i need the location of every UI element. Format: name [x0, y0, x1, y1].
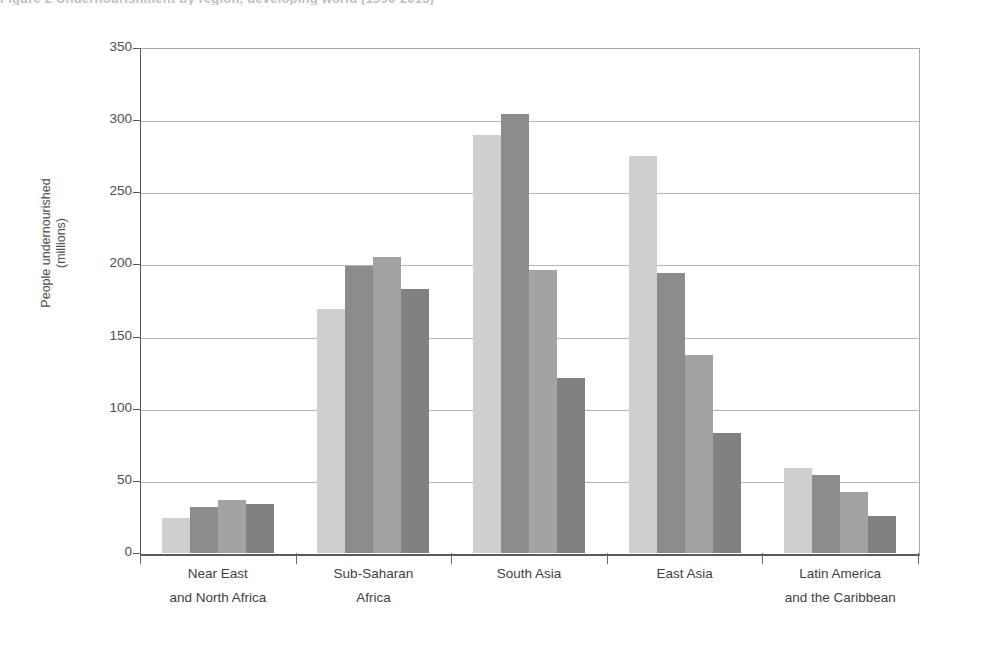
x-axis-category-label: Near Eastand North Africa	[140, 562, 296, 610]
bar[interactable]	[529, 270, 557, 553]
bar-slot	[657, 48, 685, 553]
bar-slot	[629, 48, 657, 553]
y-axis-tick-label: 150	[72, 328, 132, 343]
x-axis-category-label-line: East Asia	[607, 562, 763, 586]
bar[interactable]	[190, 507, 218, 553]
bar-slot	[501, 48, 529, 553]
x-axis-category-label-line: Africa	[296, 586, 452, 610]
y-axis-tick-label: 200	[72, 255, 132, 270]
bar-chart: People undernourished (millions) 0501001…	[0, 0, 1004, 653]
bar[interactable]	[657, 273, 685, 553]
bar[interactable]	[713, 433, 741, 553]
y-axis-tick-mark	[133, 409, 140, 410]
x-axis-tick-mark	[918, 553, 919, 564]
bar[interactable]	[784, 468, 812, 553]
x-axis-tick-mark	[296, 553, 297, 564]
bar[interactable]	[246, 504, 274, 553]
bar-slot	[784, 48, 812, 553]
y-axis-title: People undernourished (millions)	[39, 163, 69, 323]
y-axis-tick-label: 50	[72, 472, 132, 487]
bar[interactable]	[868, 516, 896, 554]
y-axis-tick-mark	[133, 120, 140, 121]
bar[interactable]	[162, 518, 190, 553]
bar-slot	[162, 48, 190, 553]
y-axis-title-line1: People undernourished	[39, 163, 54, 323]
y-axis-tick-mark	[133, 192, 140, 193]
y-axis-tick-label: 350	[72, 39, 132, 54]
bar-slot	[345, 48, 373, 553]
bar[interactable]	[317, 309, 345, 553]
y-axis-tick-mark	[133, 481, 140, 482]
x-axis-category-label: East Asia	[607, 562, 763, 586]
bar[interactable]	[401, 289, 429, 553]
bar[interactable]	[373, 257, 401, 553]
bar-slot	[373, 48, 401, 553]
x-axis-category-label-line: Latin America	[762, 562, 918, 586]
bar[interactable]	[812, 475, 840, 553]
y-axis-tick-mark	[133, 264, 140, 265]
x-axis-category-label: South Asia	[451, 562, 607, 586]
bar-slot	[868, 48, 896, 553]
bar-slot	[713, 48, 741, 553]
bar-slot	[685, 48, 713, 553]
bar-slot	[317, 48, 345, 553]
x-axis-category-label: Sub-SaharanAfrica	[296, 562, 452, 610]
y-axis-tick-label: 100	[72, 400, 132, 415]
y-axis-title-line2: (millions)	[54, 163, 69, 323]
y-axis-tick-label: 300	[72, 111, 132, 126]
bar-group	[317, 48, 429, 553]
bar[interactable]	[473, 135, 501, 553]
y-axis-tick-mark	[133, 337, 140, 338]
x-axis-category-label-line: South Asia	[451, 562, 607, 586]
bar[interactable]	[840, 492, 868, 553]
y-axis-tick-label: 0	[72, 544, 132, 559]
bar[interactable]	[629, 156, 657, 553]
x-axis-tick-mark	[607, 553, 608, 564]
bar-slot	[557, 48, 585, 553]
bar[interactable]	[345, 266, 373, 553]
x-axis-category-label-line: and the Caribbean	[762, 586, 918, 610]
bar[interactable]	[557, 378, 585, 553]
bar-group	[629, 48, 741, 553]
y-axis-tick-label: 250	[72, 183, 132, 198]
bar-group	[784, 48, 896, 553]
bar-slot	[529, 48, 557, 553]
bar[interactable]	[685, 355, 713, 553]
bar-slot	[190, 48, 218, 553]
bar[interactable]	[218, 500, 246, 553]
bar-slot	[218, 48, 246, 553]
bar-slot	[812, 48, 840, 553]
x-axis-category-label: Latin Americaand the Caribbean	[762, 562, 918, 610]
bar-slot	[401, 48, 429, 553]
bar-slot	[246, 48, 274, 553]
y-axis-tick-mark	[133, 553, 140, 554]
x-axis-tick-mark	[762, 553, 763, 564]
bar-slot	[473, 48, 501, 553]
bar-slot	[840, 48, 868, 553]
y-axis-tick-mark	[133, 48, 140, 49]
x-axis-tick-mark	[140, 553, 141, 564]
bar-group	[473, 48, 585, 553]
bar[interactable]	[501, 114, 529, 553]
bar-group	[162, 48, 274, 553]
x-axis-category-label-line: Near East	[140, 562, 296, 586]
x-axis-category-label-line: and North Africa	[140, 586, 296, 610]
x-axis-category-label-line: Sub-Saharan	[296, 562, 452, 586]
x-axis-tick-mark	[451, 553, 452, 564]
